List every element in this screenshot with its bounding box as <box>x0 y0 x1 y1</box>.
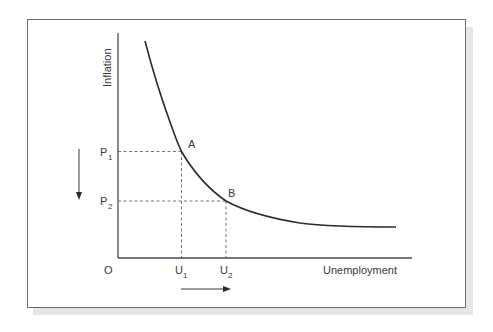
p1-label: P 1 <box>100 146 113 162</box>
x-axis-label: Unemployment <box>323 264 397 276</box>
svg-text:U: U <box>220 264 228 276</box>
right-arrow-icon <box>181 286 231 292</box>
phillips-curve-diagram: Inflation Unemployment O P 1 P 2 U 1 U 2… <box>0 0 493 332</box>
phillips-curve <box>145 41 396 227</box>
svg-text:2: 2 <box>228 271 233 280</box>
down-arrow-icon <box>76 149 82 200</box>
diagram-stage: Inflation Unemployment O P 1 P 2 U 1 U 2… <box>0 0 493 332</box>
u2-label: U 2 <box>220 264 233 280</box>
svg-text:P: P <box>100 146 107 158</box>
svg-text:2: 2 <box>108 202 113 211</box>
origin-label: O <box>104 264 113 276</box>
u1-label: U 1 <box>175 264 188 280</box>
y-axis-label: Inflation <box>101 48 113 87</box>
point-b-label: B <box>228 187 235 199</box>
svg-text:1: 1 <box>183 271 188 280</box>
svg-text:P: P <box>100 195 107 207</box>
svg-text:1: 1 <box>108 153 113 162</box>
svg-text:U: U <box>175 264 183 276</box>
point-a-label: A <box>188 138 196 150</box>
p2-label: P 2 <box>100 195 113 211</box>
